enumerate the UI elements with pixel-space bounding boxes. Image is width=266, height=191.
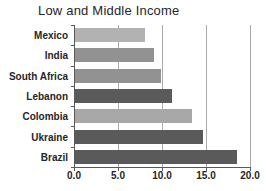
y-axis-tick xyxy=(71,106,74,107)
gridline xyxy=(250,25,251,167)
bar-india xyxy=(75,48,154,62)
x-axis-label-10.0: 10.0 xyxy=(152,170,171,181)
category-label-lebanon: Lebanon xyxy=(0,91,68,102)
category-label-ukraine: Ukraine xyxy=(0,131,68,142)
bar-lebanon xyxy=(75,89,172,103)
y-axis-labels: MexicoIndiaSouth AfricaLebanonColombiaUk… xyxy=(0,25,68,167)
gridline xyxy=(206,25,207,167)
y-axis-tick xyxy=(71,126,74,127)
x-axis-label-20.0: 20.0 xyxy=(240,170,259,181)
y-axis-tick xyxy=(71,147,74,148)
bar-mexico xyxy=(75,28,145,42)
category-label-mexico: Mexico xyxy=(0,30,68,41)
y-axis-tick xyxy=(71,86,74,87)
category-label-south-africa: South Africa xyxy=(0,70,68,81)
chart-title: Low and Middle Income xyxy=(38,3,180,18)
bar-south-africa xyxy=(75,69,161,83)
y-axis-tick xyxy=(71,25,74,26)
bar-chart: Low and Middle Income MexicoIndiaSouth A… xyxy=(0,0,266,191)
bar-brazil xyxy=(75,150,237,164)
bar-ukraine xyxy=(75,130,203,144)
x-axis-label-15.0: 15.0 xyxy=(196,170,215,181)
category-label-colombia: Colombia xyxy=(0,111,68,122)
category-label-india: India xyxy=(0,50,68,61)
x-axis-label-5.0: 5.0 xyxy=(111,170,125,181)
y-axis-tick xyxy=(71,66,74,67)
y-axis-tick xyxy=(71,45,74,46)
plot-area xyxy=(74,25,251,168)
category-label-brazil: Brazil xyxy=(0,151,68,162)
bar-colombia xyxy=(75,109,192,123)
x-axis-label-0.0: 0.0 xyxy=(67,170,81,181)
